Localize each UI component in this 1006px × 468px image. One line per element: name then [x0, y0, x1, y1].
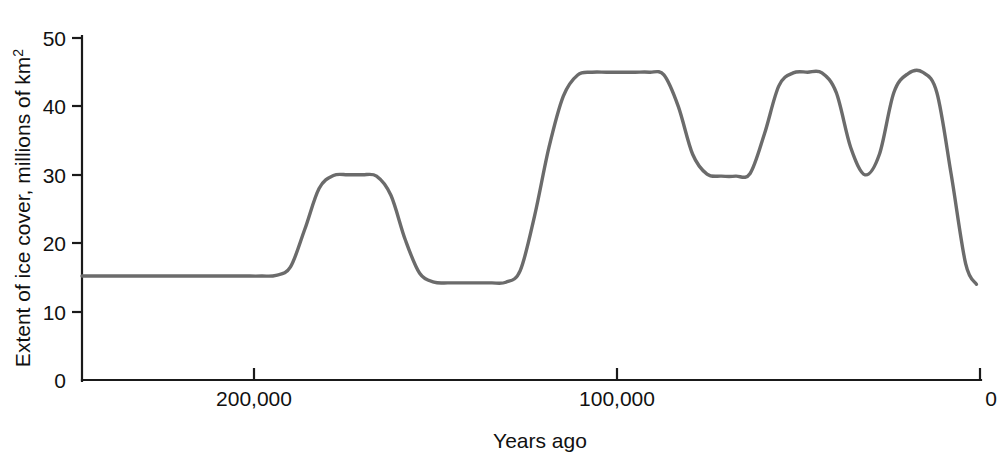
y-tick-label-0: 0	[54, 369, 66, 392]
ice-cover-curve	[82, 70, 976, 284]
y-axis-title-group: Extent of ice cover, millions of km2	[10, 49, 34, 367]
x-tick-label-0: 0	[985, 387, 997, 410]
y-tick-label-50: 50	[43, 27, 66, 50]
x-tick-label-100000: 100,000	[579, 387, 655, 410]
y-tick-label-20: 20	[43, 232, 66, 255]
x-axis-group: 200,000 100,000 0	[82, 368, 997, 410]
y-axis-group: 50 40 30 20 10 0	[43, 27, 82, 392]
y-tick-label-10: 10	[43, 301, 66, 324]
ice-cover-chart-figure: 50 40 30 20 10 0 200,000 100,000 0 Years…	[0, 0, 1006, 468]
y-tick-label-40: 40	[43, 95, 66, 118]
x-tick-label-200000: 200,000	[216, 387, 292, 410]
chart-canvas: 50 40 30 20 10 0 200,000 100,000 0 Years…	[0, 0, 1006, 468]
y-axis-title: Extent of ice cover, millions of km2	[10, 49, 34, 367]
y-axis-title-exponent: 2	[10, 49, 26, 57]
y-axis-title-main: Extent of ice cover, millions of km	[11, 57, 34, 367]
x-axis-title: Years ago	[493, 429, 587, 452]
y-tick-label-30: 30	[43, 164, 66, 187]
